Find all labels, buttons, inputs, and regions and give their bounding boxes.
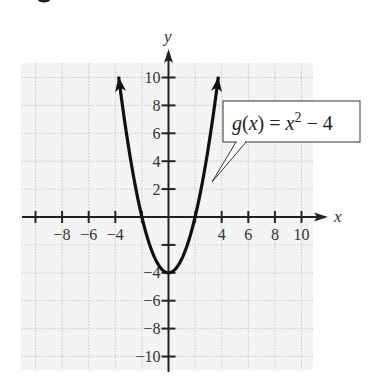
x-tick-label: −4: [107, 226, 124, 243]
y-tick-label: −10: [135, 348, 160, 365]
x-tick-label: 6: [244, 226, 252, 243]
x-tick-label: 8: [271, 226, 279, 243]
y-tick-label: −8: [143, 320, 160, 337]
function-label: g(x) = x2 − 4: [232, 110, 333, 135]
y-tick-label: 4: [153, 153, 161, 170]
y-tick-label: 2: [153, 181, 161, 198]
x-axis-label: x: [333, 207, 342, 226]
y-tick-label: 6: [153, 125, 161, 142]
x-tick-label: −8: [54, 226, 71, 243]
y-axis-label: y: [162, 27, 172, 46]
x-tick-label: 10: [294, 226, 310, 243]
y-tick-label: 8: [153, 97, 161, 114]
chart: g(x) = x2 − 4 −8−6−446810108642−4−6−8−10…: [0, 0, 374, 383]
x-tick-label: 4: [218, 226, 226, 243]
y-tick-label: −6: [143, 292, 160, 309]
cropped-heading-fragment: [38, 0, 50, 3]
x-tick-label: −6: [80, 226, 97, 243]
y-tick-label: 10: [145, 69, 161, 86]
